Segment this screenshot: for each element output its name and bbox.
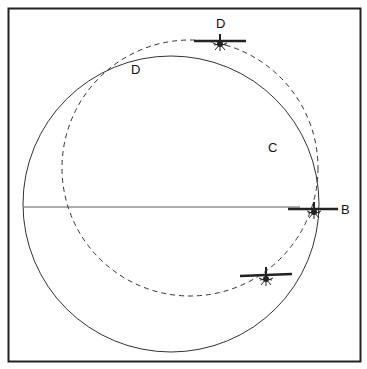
dashed-ground-track: [62, 40, 318, 296]
solid-flight-circle: [23, 56, 319, 352]
airplane-b-icon: [288, 202, 338, 219]
airplane-lower-icon: [240, 267, 292, 286]
airplane-top-icon: [194, 34, 246, 51]
label-d-circle: D: [131, 62, 140, 77]
label-c: C: [268, 140, 277, 155]
frame: [9, 9, 361, 362]
label-b: B: [341, 202, 350, 217]
label-d-top: D: [216, 16, 225, 31]
diagram-canvas: D D C B: [0, 0, 367, 369]
